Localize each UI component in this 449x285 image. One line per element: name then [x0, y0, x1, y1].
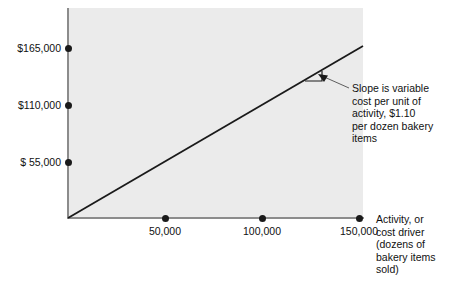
x-axis-title: Activity, or cost driver (dozens of bake…: [376, 213, 449, 276]
y-tick-label-55000: $ 55,000: [0, 157, 61, 168]
y-tick-label-165000: $165,000: [0, 43, 61, 54]
callout-line-1: Slope is variable: [352, 82, 448, 95]
y-tick-dot-165000: [65, 45, 72, 52]
x-axis-title-line-2: cost driver: [376, 226, 449, 239]
x-axis-title-line-3: (dozens of: [376, 238, 449, 251]
x-axis-line: [67, 217, 364, 219]
callout-line-5: items: [352, 132, 448, 145]
y-tick-label-110000: $110,000: [0, 100, 61, 111]
x-tick-dot-50000: [162, 215, 169, 222]
x-axis-title-line-5: sold): [376, 263, 449, 276]
clipped-top-text: [8, 0, 308, 5]
callout-line-4: per dozen bakery: [352, 120, 448, 133]
plot-area: [69, 8, 363, 218]
y-axis-line: [67, 8, 69, 219]
x-tick-label-100000: 100,000: [222, 226, 302, 237]
x-tick-dot-150000: [356, 215, 363, 222]
y-tick-dot-110000: [65, 102, 72, 109]
x-tick-label-50000: 50,000: [125, 226, 205, 237]
x-axis-title-line-4: bakery items: [376, 251, 449, 264]
callout-line-2: cost per unit of: [352, 95, 448, 108]
callout-line-3: activity, $1.10: [352, 107, 448, 120]
slope-callout-text: Slope is variable cost per unit of activ…: [352, 82, 448, 145]
variable-cost-chart: $165,000 $110,000 $ 55,000 50,000 100,00…: [0, 0, 449, 285]
y-tick-dot-55000: [65, 159, 72, 166]
x-tick-dot-100000: [259, 215, 266, 222]
x-axis-title-line-1: Activity, or: [376, 213, 449, 226]
